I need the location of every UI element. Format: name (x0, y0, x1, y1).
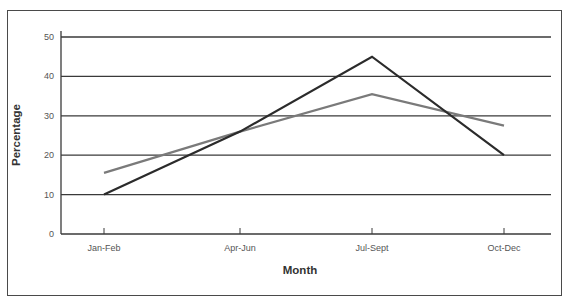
line-chart: 01020304050 Jan-FebApr-JunJul-SeptOct-De… (0, 0, 565, 302)
x-tick-label: Jul-Sept (355, 243, 389, 253)
y-tick-label: 10 (44, 190, 54, 200)
x-axis-title: Month (283, 264, 317, 276)
y-axis-title: Percentage (10, 104, 22, 166)
x-axis-ticks: Jan-FebApr-JunJul-SeptOct-Dec (87, 228, 521, 253)
x-tick-label: Oct-Dec (487, 243, 521, 253)
y-tick-label: 0 (49, 229, 54, 239)
y-tick-label: 40 (44, 71, 54, 81)
y-tick-label: 50 (44, 32, 54, 42)
series-line (104, 94, 504, 173)
data-series (104, 57, 504, 195)
x-tick-label: Apr-Jun (224, 243, 256, 253)
y-tick-label: 20 (44, 150, 54, 160)
series-line (104, 57, 504, 195)
y-tick-label: 30 (44, 111, 54, 121)
x-tick-label: Jan-Feb (87, 243, 120, 253)
y-axis-ticks: 01020304050 (44, 32, 54, 239)
